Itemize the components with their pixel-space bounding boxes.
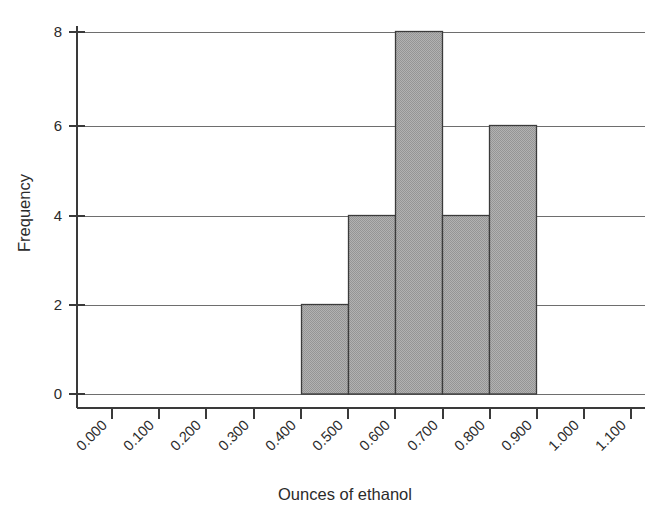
y-tick-label-6: 6 [54,117,62,134]
y-tick-label-4: 4 [54,207,62,224]
bar-0.800-0.900 [490,126,537,395]
bar-0.600-0.700 [396,32,443,395]
chart-canvas: 8 6 4 2 0 0.000 0.100 0.200 0.300 [0,0,661,518]
histogram-figure: 8 6 4 2 0 0.000 0.100 0.200 0.300 [0,0,661,518]
bar-0.500-0.600 [349,216,396,395]
bar-0.400-0.500 [302,305,349,395]
y-tick-label-8: 8 [54,23,62,40]
x-axis-title: Ounces of ethanol [278,485,412,503]
y-axis-title: Frequency [15,173,33,252]
y-tick-label-2: 2 [54,296,62,313]
y-tick-label-0: 0 [54,385,62,402]
bar-0.700-0.800 [443,216,490,395]
